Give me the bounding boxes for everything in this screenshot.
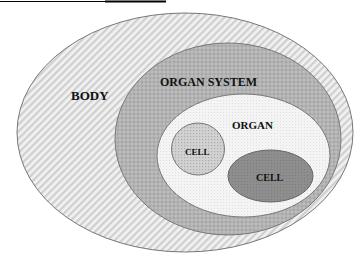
organ-system-label: ORGAN SYSTEM (160, 75, 257, 89)
cell-label-2: CELL (256, 172, 284, 183)
diagram-canvas: BODY ORGAN SYSTEM ORGAN CELL CELL (0, 0, 363, 259)
organ-label: ORGAN (232, 119, 273, 131)
body-label: BODY (71, 88, 109, 103)
cell-label-1: CELL (185, 147, 210, 157)
